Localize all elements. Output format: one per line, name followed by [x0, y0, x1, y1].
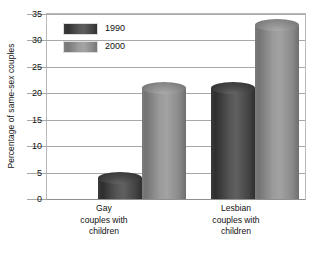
y-tick-label-5: 5 [37, 168, 42, 178]
category-label-gay: Gay couples with children [40, 203, 168, 238]
category-label-lesbian-line2: couples with [172, 215, 300, 227]
bar-top-ellipse [98, 172, 142, 184]
legend-item-1990[interactable]: 1990 [63, 22, 125, 35]
bar-top-ellipse [142, 82, 186, 94]
category-label-lesbian-line1: Lesbian [172, 203, 300, 215]
bar-chart: Percentage of same-sex couples 353025201… [0, 0, 314, 254]
y-axis-title: Percentage of same-sex couples [6, 16, 16, 196]
y-tick-label-35: 35 [32, 9, 42, 19]
y-tick-label-30: 30 [32, 35, 42, 45]
chart-legend: 1990 2000 [63, 22, 125, 58]
gridline-0 [47, 199, 305, 200]
category-label-lesbian-line3: children [172, 226, 300, 238]
bar-1990-group-2[interactable] [211, 88, 255, 199]
bar-2000-group-2[interactable] [255, 25, 299, 199]
bar-1990-group-1[interactable] [98, 178, 142, 199]
bar-body [142, 88, 186, 199]
bar-top-ellipse [255, 19, 299, 31]
legend-item-2000[interactable]: 2000 [63, 40, 125, 53]
category-label-gay-line1: Gay [40, 203, 168, 215]
legend-swatch-2000 [63, 41, 98, 53]
y-tick-label-15: 15 [32, 115, 42, 125]
legend-label-1990: 1990 [105, 24, 125, 33]
y-tick-label-20: 20 [32, 88, 42, 98]
bar-body [255, 25, 299, 199]
category-label-gay-line3: children [40, 226, 168, 238]
bar-top-ellipse [211, 82, 255, 94]
y-tick-label-10: 10 [32, 141, 42, 151]
bar-body [211, 88, 255, 199]
category-label-lesbian: Lesbian couples with children [172, 203, 300, 238]
bar-2000-group-1[interactable] [142, 88, 186, 199]
legend-swatch-1990 [63, 23, 98, 35]
gridline-35 [47, 14, 305, 15]
category-label-gay-line2: couples with [40, 215, 168, 227]
legend-label-2000: 2000 [105, 42, 125, 51]
y-tick-label-25: 25 [32, 62, 42, 72]
